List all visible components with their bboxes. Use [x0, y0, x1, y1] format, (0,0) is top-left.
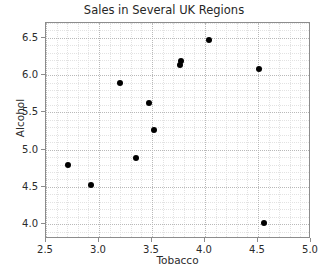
y-axis-tick-label: 6.0	[8, 69, 38, 80]
y-axis-tick	[41, 223, 45, 224]
y-axis-tick-label: 5.5	[8, 106, 38, 117]
data-point	[133, 155, 139, 161]
y-axis-tick-label: 4.0	[8, 218, 38, 229]
x-axis-tick	[45, 238, 46, 242]
y-axis-tick	[41, 149, 45, 150]
x-axis-tick	[151, 238, 152, 242]
data-point	[151, 127, 157, 133]
y-axis-tick	[41, 74, 45, 75]
data-point	[88, 182, 94, 188]
scatter-plot-figure: Sales in Several UK Regions Tobacco Alco…	[0, 0, 328, 274]
y-axis-tick	[41, 186, 45, 187]
y-axis-tick-label: 5.0	[8, 143, 38, 154]
y-axis-tick	[41, 111, 45, 112]
data-point	[261, 220, 267, 226]
x-axis-tick	[257, 238, 258, 242]
y-axis-tick	[41, 37, 45, 38]
data-point	[146, 100, 152, 106]
x-axis-tick-label: 4.5	[249, 244, 265, 255]
data-points-layer	[46, 23, 309, 237]
y-axis-tick-label: 6.5	[8, 31, 38, 42]
plot-area	[45, 22, 310, 238]
x-axis-tick	[310, 238, 311, 242]
data-point	[117, 80, 123, 86]
x-axis-tick-label: 5.0	[302, 244, 318, 255]
data-point	[178, 58, 184, 64]
x-axis-label: Tobacco	[45, 254, 310, 266]
x-axis-tick-label: 4.0	[196, 244, 212, 255]
x-axis-tick	[98, 238, 99, 242]
x-axis-tick	[204, 238, 205, 242]
y-axis-tick-label: 4.5	[8, 180, 38, 191]
x-axis-tick-label: 2.5	[37, 244, 53, 255]
chart-title: Sales in Several UK Regions	[0, 3, 328, 17]
x-axis-tick-label: 3.0	[90, 244, 106, 255]
data-point	[65, 162, 71, 168]
data-point	[206, 37, 212, 43]
x-axis-tick-label: 3.5	[143, 244, 159, 255]
data-point	[256, 66, 262, 72]
